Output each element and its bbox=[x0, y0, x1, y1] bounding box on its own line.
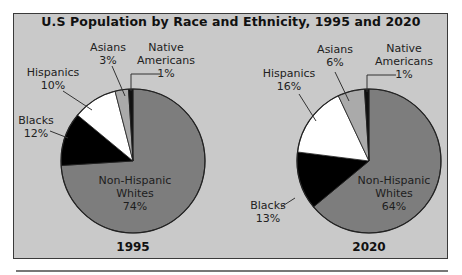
label-native-americans-2020: NativeAmericans1% bbox=[375, 42, 433, 81]
label-blacks-1995: Blacks12% bbox=[18, 114, 54, 140]
label-hispanics-1995: Hispanics10% bbox=[27, 66, 80, 92]
year-label-1995: 1995 bbox=[116, 240, 149, 254]
label-hispanics-2020: Hispanics16% bbox=[263, 67, 316, 93]
bottom-divider bbox=[16, 270, 448, 272]
year-label-2020: 2020 bbox=[352, 240, 385, 254]
label-asians-2020: Asians6% bbox=[317, 43, 353, 69]
label-blacks-2020: Blacks13% bbox=[250, 199, 286, 225]
label-asians-1995: Asians3% bbox=[90, 41, 126, 67]
label-native-americans-1995: NativeAmericans1% bbox=[137, 41, 195, 80]
label-whites-2020: Non-HispanicWhites64% bbox=[358, 174, 431, 213]
label-whites-1995: Non-HispanicWhites74% bbox=[99, 174, 172, 213]
